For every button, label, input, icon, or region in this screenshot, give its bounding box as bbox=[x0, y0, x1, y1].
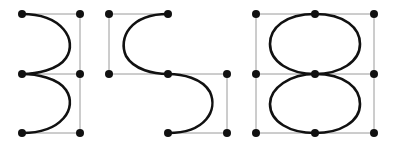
control-point bbox=[105, 70, 113, 78]
digit-glyph-diagram bbox=[0, 0, 393, 146]
control-point bbox=[18, 70, 26, 78]
control-point bbox=[76, 10, 84, 18]
control-point bbox=[164, 70, 172, 78]
control-point bbox=[164, 10, 172, 18]
control-point bbox=[252, 129, 260, 137]
glyph-digit-eight bbox=[252, 10, 378, 137]
control-point bbox=[18, 129, 26, 137]
control-point bbox=[252, 70, 260, 78]
control-point bbox=[223, 129, 231, 137]
control-point bbox=[311, 70, 319, 78]
control-point bbox=[18, 10, 26, 18]
control-point bbox=[370, 70, 378, 78]
glyph-letter-s bbox=[105, 10, 231, 137]
control-point bbox=[370, 10, 378, 18]
control-point bbox=[76, 70, 84, 78]
glyph-digit-three bbox=[18, 10, 84, 137]
control-point bbox=[370, 129, 378, 137]
control-point bbox=[164, 129, 172, 137]
control-point bbox=[252, 10, 260, 18]
control-point bbox=[76, 129, 84, 137]
control-point bbox=[311, 10, 319, 18]
control-point bbox=[311, 129, 319, 137]
control-point bbox=[223, 70, 231, 78]
control-point bbox=[105, 10, 113, 18]
